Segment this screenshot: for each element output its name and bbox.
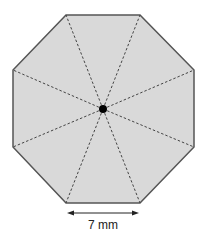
octagon-diagram: 7 mm xyxy=(0,0,201,234)
dimension-arrow xyxy=(67,211,139,216)
side-length-label: 7 mm xyxy=(88,218,118,232)
center-point xyxy=(99,105,107,113)
